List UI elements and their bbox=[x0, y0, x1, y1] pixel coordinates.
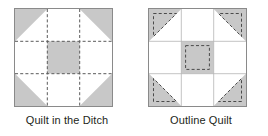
quilt-block-frame-left bbox=[14, 8, 113, 107]
quilt-block-art-left bbox=[15, 9, 112, 106]
quilt-block-in-the-ditch: Quilt in the Ditch bbox=[0, 0, 134, 136]
patch-center bbox=[47, 41, 79, 73]
block-caption-right: Outline Quilt bbox=[134, 113, 268, 127]
quilting-diagram: Quilt in the Ditch bbox=[0, 0, 268, 136]
block-caption-left: Quilt in the Ditch bbox=[0, 113, 134, 127]
quilt-block-frame-right bbox=[148, 8, 247, 107]
quilt-block-outline: Outline Quilt bbox=[134, 0, 268, 136]
patch-center bbox=[181, 41, 213, 73]
quilt-block-art-right bbox=[149, 9, 246, 106]
